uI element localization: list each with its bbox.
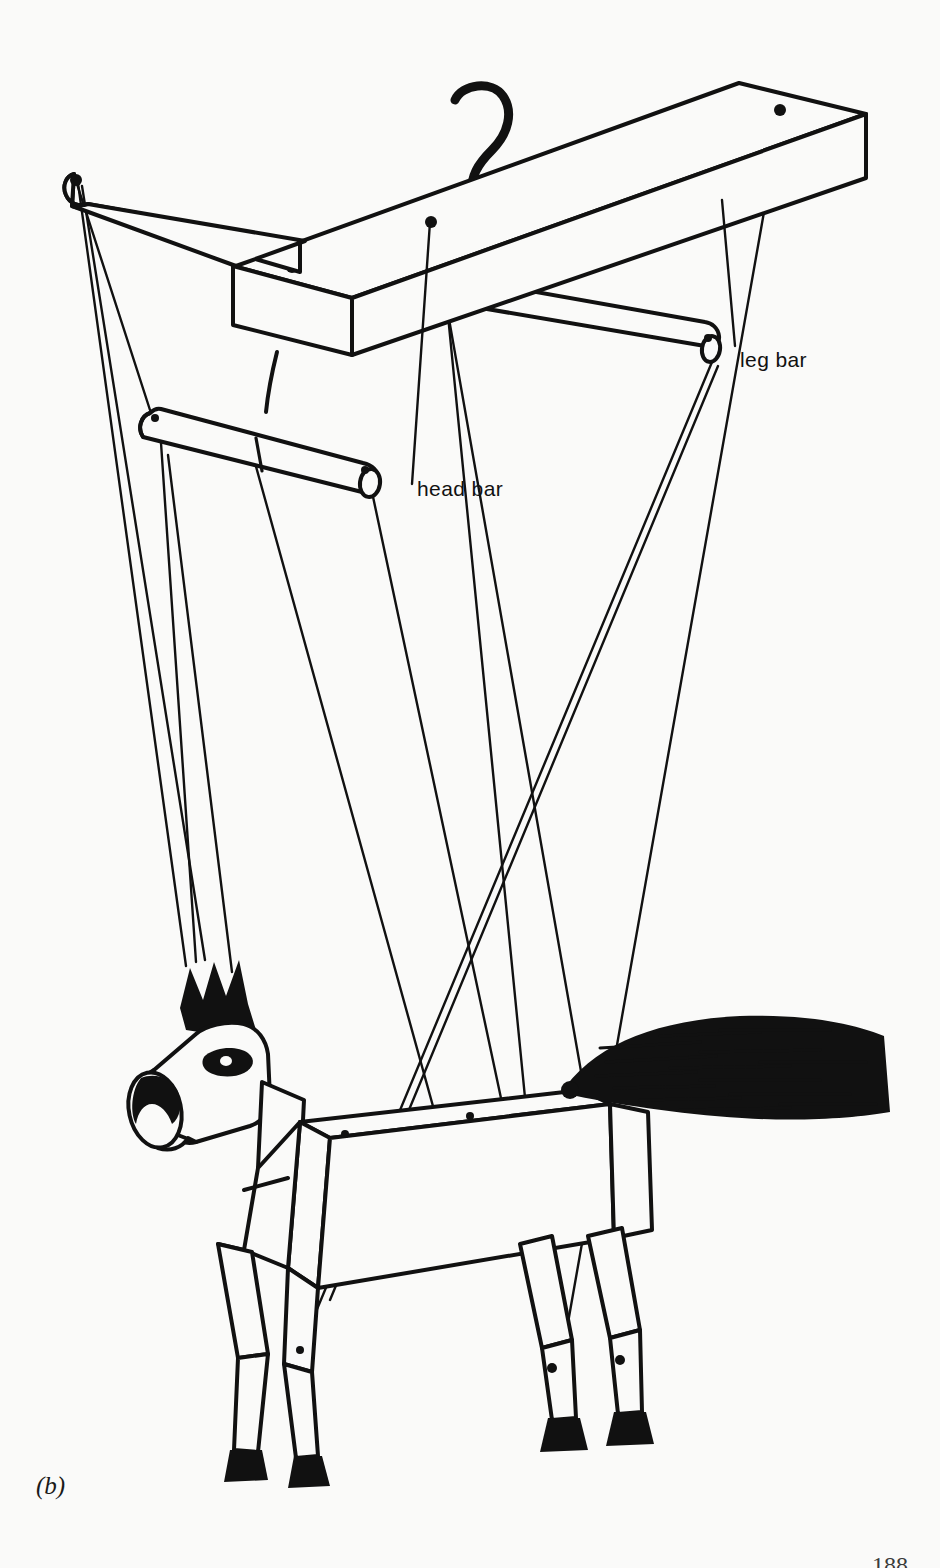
hoof-front-left	[224, 1450, 268, 1482]
hoof-front-right	[288, 1456, 330, 1488]
horse-rear-legs	[520, 1228, 654, 1452]
head-bar-dowel	[140, 352, 382, 498]
hoof-rear-left	[540, 1418, 588, 1452]
hoof-rear-right	[606, 1412, 654, 1446]
beam-hole-right	[774, 104, 786, 116]
figure-caption: (b)	[36, 1472, 65, 1500]
page-number: 188	[872, 1552, 908, 1568]
marionette-illustration: .ink { fill:none; stroke:#111111; stroke…	[0, 0, 940, 1568]
label-head-bar: head bar	[417, 477, 503, 501]
label-leg-bar: leg bar	[740, 348, 807, 372]
figure-page: .ink { fill:none; stroke:#111111; stroke…	[0, 0, 940, 1568]
